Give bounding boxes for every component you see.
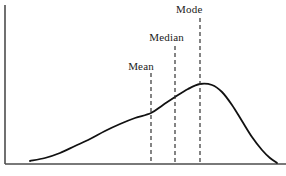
distribution-chart: Mean Median Mode bbox=[0, 0, 286, 176]
density-curve bbox=[30, 84, 277, 163]
chart-canvas bbox=[0, 0, 286, 176]
mode-label: Mode bbox=[176, 3, 216, 15]
mean-label: Mean bbox=[118, 60, 154, 72]
median-label: Median bbox=[140, 31, 184, 43]
